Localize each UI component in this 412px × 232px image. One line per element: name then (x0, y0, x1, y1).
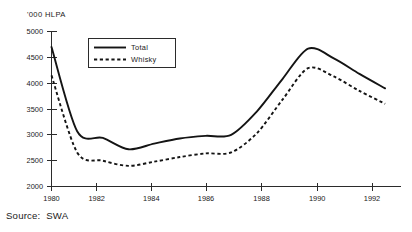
y-tick-label-4500: 4500 (27, 53, 43, 62)
x-axis-tick-labels: 1980 1982 1984 1986 1988 1990 1992 (43, 194, 380, 203)
legend-label-whisky: Whisky (131, 55, 157, 64)
legend-label-total: Total (131, 43, 148, 52)
chart-legend: Total Whisky (89, 39, 176, 68)
y-tick-label-5000: 5000 (27, 27, 43, 36)
series-line-whisky (52, 67, 386, 165)
y-axis-units-label: '000 HLPA (27, 10, 66, 19)
source-note: Source: SWA (6, 210, 68, 221)
chart-figure: '000 HLPA 5000 4500 4000 3500 3000 2500 … (0, 0, 412, 232)
y-tick-label-4000: 4000 (27, 79, 43, 88)
line-chart-canvas: '000 HLPA 5000 4500 4000 3500 3000 2500 … (0, 0, 412, 232)
x-tick-label-1980: 1980 (43, 194, 59, 203)
y-tick-label-2000: 2000 (27, 182, 43, 191)
y-axis-tick-labels: 5000 4500 4000 3500 3000 2500 2000 (27, 27, 43, 191)
x-tick-label-1986: 1986 (198, 194, 214, 203)
x-tick-label-1990: 1990 (309, 194, 325, 203)
x-tick-label-1992: 1992 (364, 194, 380, 203)
y-tick-label-3500: 3500 (27, 105, 43, 114)
x-tick-label-1988: 1988 (253, 194, 269, 203)
y-tick-label-3000: 3000 (27, 130, 43, 139)
x-tick-label-1982: 1982 (88, 194, 104, 203)
x-tick-label-1984: 1984 (143, 194, 159, 203)
y-tick-label-2500: 2500 (27, 156, 43, 165)
